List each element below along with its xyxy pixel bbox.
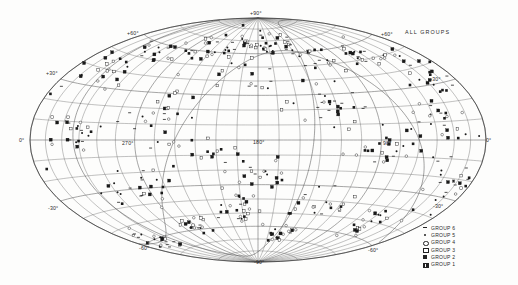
lat-label-north-30-right: +30°	[429, 76, 441, 82]
lon-label-90: 90°	[383, 140, 391, 146]
lat-label-north-30-left: +30°	[46, 70, 58, 76]
legend-item-label: GROUP 2	[431, 254, 455, 260]
legend-item-label: GROUP 3	[431, 247, 455, 253]
legend-item-group-6: GROUP 6	[421, 224, 483, 231]
lat-label-north-90: +90°	[250, 10, 262, 16]
lon-label-0-right: 0°	[486, 137, 491, 143]
open-circle-symbol-icon	[421, 239, 430, 246]
legend-item-label: GROUP 6	[431, 225, 455, 231]
lat-label-south-90: -90°	[254, 259, 264, 265]
lat-label-south-60-right: -60°	[368, 247, 378, 253]
legend-item-group-1: GROUP 1	[421, 260, 483, 267]
dash-symbol-icon	[421, 224, 430, 231]
lon-label-180: 180°	[253, 139, 265, 145]
legend: GROUP 6GROUP 5GROUP 4GROUP 3GROUP 2GROUP…	[421, 224, 483, 268]
chart-title: ALL GROUPS	[405, 29, 450, 35]
lat-label-north-60-right: +60°	[381, 31, 393, 37]
legend-item-label: GROUP 4	[431, 239, 455, 245]
filled-dot-symbol-icon	[421, 231, 430, 238]
lon-label-0-left: 0°	[19, 137, 24, 143]
legend-item-label: GROUP 1	[431, 261, 455, 267]
legend-item-group-4: GROUP 4	[421, 239, 483, 246]
legend-item-group-3: GROUP 3	[421, 246, 483, 253]
legend-item-group-2: GROUP 2	[421, 253, 483, 260]
lat-label-north-60-left: +60°	[127, 30, 139, 36]
lat-label-south-30-right: -30°	[433, 203, 443, 209]
legend-item-group-5: GROUP 5	[421, 231, 483, 238]
lat-label-south-30-left: -30°	[48, 205, 58, 211]
legend-item-label: GROUP 5	[431, 232, 455, 238]
lat-label-south-60-left: -60°	[139, 245, 149, 251]
open-square-symbol-icon	[421, 246, 430, 253]
hatched-square-symbol-icon	[421, 261, 430, 268]
data-points-layer	[45, 24, 480, 248]
filled-square-symbol-icon	[421, 253, 430, 260]
sky-map-figure: ALL GROUPS +90° +60° +60° +30° +30° -30°…	[0, 0, 518, 285]
lon-label-270: 270°	[122, 140, 134, 146]
